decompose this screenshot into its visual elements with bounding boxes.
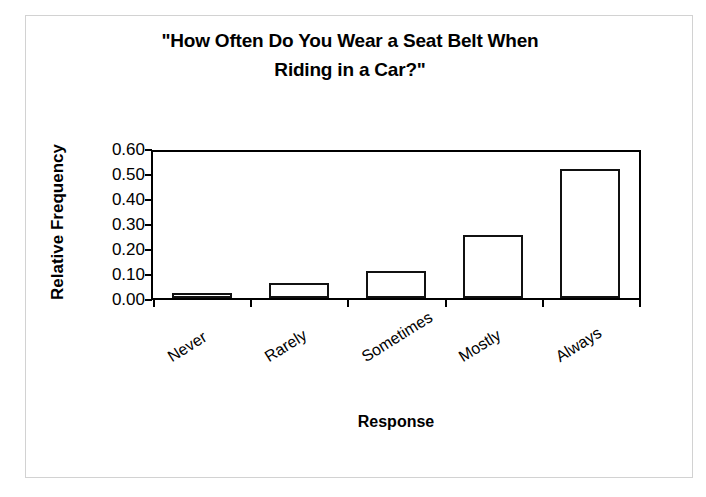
y-axis-tick-label: 0.60 — [87, 140, 145, 160]
y-axis-tick-label: 0.50 — [87, 165, 145, 185]
bar-sometimes — [366, 271, 426, 298]
y-axis-tick-label: 0.10 — [87, 265, 145, 285]
y-axis-tick-mark — [145, 274, 152, 276]
bar-rarely — [269, 283, 329, 298]
bar-never — [172, 293, 232, 298]
y-axis-tick-mark — [145, 224, 152, 226]
y-axis-tick-label: 0.20 — [87, 240, 145, 260]
y-axis-tick-label: 0.40 — [87, 190, 145, 210]
x-axis-tick-mark — [250, 300, 252, 307]
y-axis-tick-label: 0.00 — [87, 290, 145, 310]
chart-title-line-1: "How Often Do You Wear a Seat Belt When — [60, 26, 640, 55]
x-axis-tick-mark — [347, 300, 349, 307]
y-axis-tick-labels: 0.600.500.400.300.200.100.00 — [85, 150, 145, 300]
x-axis-tick-mark — [639, 300, 641, 307]
y-axis-title: Relative Frequency — [48, 127, 68, 317]
x-axis-title: Response — [151, 413, 641, 431]
y-axis-tick-mark — [145, 299, 152, 301]
y-axis-tick-mark — [145, 199, 152, 201]
y-axis-tick-mark — [145, 174, 152, 176]
x-axis-tick-mark — [542, 300, 544, 307]
x-axis-tick-mark — [153, 300, 155, 307]
y-axis-tick-mark — [145, 249, 152, 251]
chart-title-line-2: Riding in a Car?" — [60, 55, 640, 84]
x-axis-tick-mark — [445, 300, 447, 307]
bar-always — [560, 169, 620, 298]
chart-title: "How Often Do You Wear a Seat Belt When … — [60, 26, 640, 84]
bar-mostly — [463, 235, 523, 298]
plot-area — [153, 152, 639, 298]
y-axis-tick-label: 0.30 — [87, 215, 145, 235]
y-axis-tick-mark — [145, 149, 152, 151]
